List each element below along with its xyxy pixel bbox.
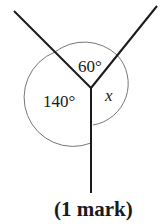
- marks-label: (1 mark): [54, 197, 133, 222]
- angle-arc-top: [55, 42, 117, 55]
- ray-upper-left: [14, 11, 91, 88]
- angle-label-140: 140°: [43, 92, 75, 111]
- angle-diagram: 60° 140° x: [0, 0, 167, 224]
- angle-label-60: 60°: [78, 57, 102, 76]
- angle-label-x: x: [104, 86, 113, 105]
